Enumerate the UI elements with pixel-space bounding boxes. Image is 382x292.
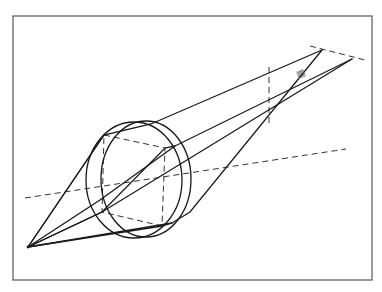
optical-axis bbox=[25, 149, 346, 198]
light-rays bbox=[28, 50, 352, 247]
lens-ray-diagram bbox=[0, 0, 382, 292]
light-ray bbox=[28, 135, 104, 247]
image-plane-line bbox=[310, 46, 365, 60]
light-ray bbox=[28, 59, 352, 247]
light-ray bbox=[28, 59, 352, 247]
light-ray bbox=[28, 146, 175, 247]
image-spot-icon bbox=[297, 70, 306, 79]
object-point bbox=[27, 246, 30, 249]
